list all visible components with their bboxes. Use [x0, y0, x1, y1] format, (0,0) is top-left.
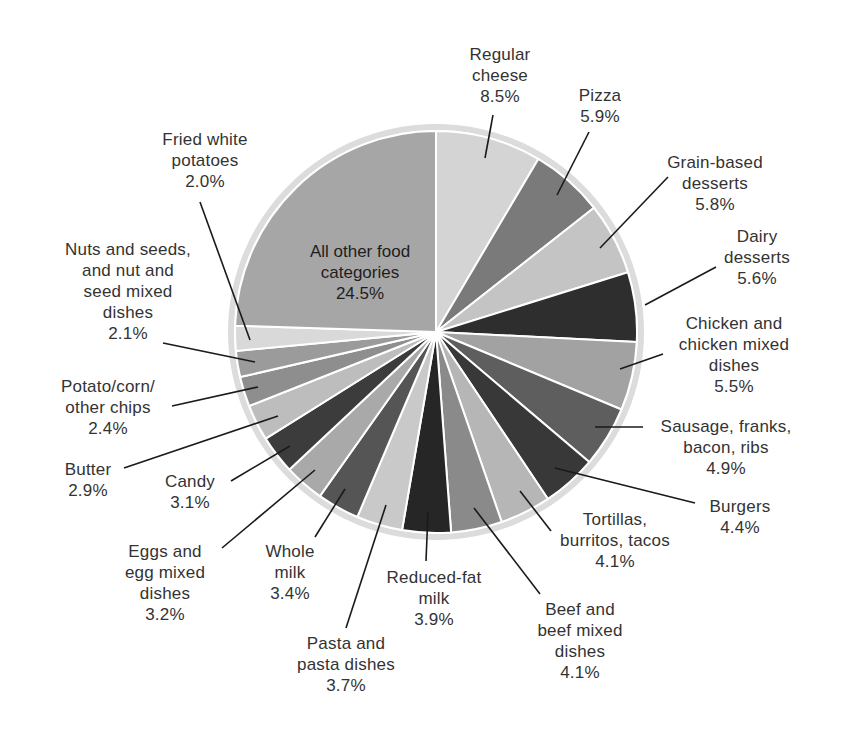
- label-all-other: All other food categories 24.5%: [270, 241, 450, 304]
- label-chips: Potato/corn/ other chips 2.4%: [48, 376, 168, 439]
- label-regular-cheese-line2: cheese: [455, 65, 545, 86]
- label-chicken: Chicken and chicken mixed dishes 5.5%: [664, 313, 804, 397]
- label-candy-pct: 3.1%: [155, 492, 225, 513]
- label-all-other-line2: categories: [270, 262, 450, 283]
- label-nuts-line4: dishes: [48, 302, 208, 323]
- label-butter: Butter 2.9%: [53, 459, 123, 501]
- label-grain-line2: desserts: [655, 173, 775, 194]
- label-beef: Beef and beef mixed dishes 4.1%: [520, 599, 640, 683]
- label-whole-milk: Whole milk 3.4%: [250, 541, 330, 604]
- label-grain-based-desserts: Grain-based desserts 5.8%: [655, 152, 775, 215]
- label-chicken-line2: chicken mixed: [664, 334, 804, 355]
- label-pizza: Pizza 5.9%: [570, 85, 630, 127]
- label-pasta-line1: Pasta and: [281, 633, 411, 654]
- label-chicken-line1: Chicken and: [664, 313, 804, 334]
- label-grain-line1: Grain-based: [655, 152, 775, 173]
- label-regular-cheese: Regular cheese 8.5%: [455, 44, 545, 107]
- label-chicken-line3: dishes: [664, 355, 804, 376]
- label-fried-line1: Fried white: [150, 129, 260, 150]
- label-tortillas-line2: burritos, tacos: [545, 530, 685, 551]
- leader-line-eggs: [222, 470, 315, 548]
- label-chips-line1: Potato/corn/: [48, 376, 168, 397]
- label-beef-line2: beef mixed: [520, 620, 640, 641]
- label-nuts-seeds: Nuts and seeds, and nut and seed mixed d…: [48, 239, 208, 344]
- label-whole-pct: 3.4%: [250, 583, 330, 604]
- leader-line-dairy: [645, 267, 716, 305]
- label-tortillas-line1: Tortillas,: [545, 509, 685, 530]
- label-all-other-line1: All other food: [270, 241, 450, 262]
- label-pasta-pct: 3.7%: [281, 675, 411, 696]
- label-fried-line2: potatoes: [150, 150, 260, 171]
- label-dairy-desserts: Dairy desserts 5.6%: [712, 226, 802, 289]
- label-regular-cheese-pct: 8.5%: [455, 86, 545, 107]
- label-chips-pct: 2.4%: [48, 418, 168, 439]
- label-sausage-pct: 4.9%: [646, 458, 806, 479]
- label-tortillas: Tortillas, burritos, tacos 4.1%: [545, 509, 685, 572]
- label-burgers: Burgers 4.4%: [690, 496, 790, 538]
- label-butter-pct: 2.9%: [53, 480, 123, 501]
- label-whole-line1: Whole: [250, 541, 330, 562]
- label-sausage: Sausage, franks, bacon, ribs 4.9%: [646, 416, 806, 479]
- label-dairy-pct: 5.6%: [712, 268, 802, 289]
- label-pasta: Pasta and pasta dishes 3.7%: [281, 633, 411, 696]
- label-reduced-line1: Reduced-fat: [379, 567, 489, 588]
- label-beef-line3: dishes: [520, 641, 640, 662]
- label-tortillas-pct: 4.1%: [545, 551, 685, 572]
- label-eggs-line3: dishes: [110, 583, 220, 604]
- label-pizza-line1: Pizza: [570, 85, 630, 106]
- label-sausage-line2: bacon, ribs: [646, 437, 806, 458]
- label-nuts-line3: seed mixed: [48, 281, 208, 302]
- label-chicken-pct: 5.5%: [664, 376, 804, 397]
- label-butter-line1: Butter: [53, 459, 123, 480]
- label-reduced-line2: milk: [379, 588, 489, 609]
- label-eggs: Eggs and egg mixed dishes 3.2%: [110, 541, 220, 625]
- label-all-other-pct: 24.5%: [270, 283, 450, 304]
- label-regular-cheese-line1: Regular: [455, 44, 545, 65]
- label-nuts-line1: Nuts and seeds,: [48, 239, 208, 260]
- label-sausage-line1: Sausage, franks,: [646, 416, 806, 437]
- label-eggs-pct: 3.2%: [110, 604, 220, 625]
- label-dairy-line2: desserts: [712, 247, 802, 268]
- label-reduced-fat-milk: Reduced-fat milk 3.9%: [379, 567, 489, 630]
- label-eggs-line2: egg mixed: [110, 562, 220, 583]
- label-candy-line1: Candy: [155, 471, 225, 492]
- label-beef-line1: Beef and: [520, 599, 640, 620]
- label-fried-pct: 2.0%: [150, 171, 260, 192]
- label-nuts-pct: 2.1%: [48, 323, 208, 344]
- label-candy: Candy 3.1%: [155, 471, 225, 513]
- label-nuts-line2: and nut and: [48, 260, 208, 281]
- label-eggs-line1: Eggs and: [110, 541, 220, 562]
- label-pasta-line2: pasta dishes: [281, 654, 411, 675]
- label-whole-line2: milk: [250, 562, 330, 583]
- label-burgers-pct: 4.4%: [690, 517, 790, 538]
- label-fried-potatoes: Fried white potatoes 2.0%: [150, 129, 260, 192]
- label-reduced-pct: 3.9%: [379, 609, 489, 630]
- label-dairy-line1: Dairy: [712, 226, 802, 247]
- label-pizza-pct: 5.9%: [570, 106, 630, 127]
- label-grain-pct: 5.8%: [655, 194, 775, 215]
- label-burgers-line1: Burgers: [690, 496, 790, 517]
- label-chips-line2: other chips: [48, 397, 168, 418]
- label-beef-pct: 4.1%: [520, 662, 640, 683]
